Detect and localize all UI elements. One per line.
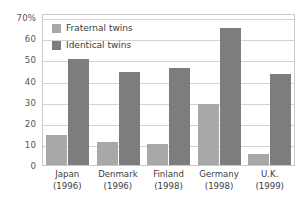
bar-fraternal[interactable] — [46, 135, 67, 165]
x-tick-country: Denmark — [93, 169, 144, 181]
fraternal-swatch-icon — [52, 24, 61, 33]
chart-legend: Fraternal twins Identical twins — [52, 21, 133, 55]
legend-label-fraternal: Fraternal twins — [66, 24, 133, 33]
y-tick-label: 60 — [25, 34, 36, 44]
identical-swatch-icon — [52, 41, 61, 50]
x-tick-year: (1999) — [244, 181, 295, 193]
bar-fraternal[interactable] — [147, 144, 168, 165]
bar-group — [195, 15, 246, 165]
x-axis: Japan(1996)Denmark(1996)Finland(1998)Ger… — [42, 169, 295, 205]
x-tick-country: U.K. — [244, 169, 295, 181]
x-tick-label: Japan(1996) — [42, 169, 93, 192]
x-tick-year: (1996) — [42, 181, 93, 193]
x-tick-country: Finland — [143, 169, 194, 181]
x-tick-year: (1998) — [143, 181, 194, 193]
x-tick-label: Germany(1998) — [194, 169, 245, 192]
bar-identical[interactable] — [220, 28, 241, 165]
bar-identical[interactable] — [270, 74, 291, 165]
twin-concordance-bar-chart: 70%6050403020100 Fraternal twins Identic… — [0, 0, 306, 209]
legend-item-identical: Identical twins — [52, 38, 133, 53]
y-tick-label: 30 — [25, 98, 36, 108]
y-tick-label: 40 — [25, 77, 36, 87]
y-axis: 70%6050403020100 — [0, 0, 40, 209]
x-tick-country: Japan — [42, 169, 93, 181]
bar-identical[interactable] — [169, 68, 190, 165]
bar-fraternal[interactable] — [198, 104, 219, 165]
y-tick-label: 0 — [30, 161, 36, 171]
y-tick-label: 10 — [25, 140, 36, 150]
x-tick-year: (1998) — [194, 181, 245, 193]
bar-group — [245, 15, 295, 165]
bar-fraternal[interactable] — [97, 142, 118, 165]
legend-label-identical: Identical twins — [66, 41, 131, 50]
y-tick-label: 70% — [17, 13, 36, 23]
bar-identical[interactable] — [119, 72, 140, 165]
x-tick-label: U.K.(1999) — [244, 169, 295, 192]
x-tick-label: Finland(1998) — [143, 169, 194, 192]
y-tick-label: 20 — [25, 119, 36, 129]
bar-fraternal[interactable] — [248, 154, 269, 165]
x-tick-label: Denmark(1996) — [93, 169, 144, 192]
legend-item-fraternal: Fraternal twins — [52, 21, 133, 36]
bar-identical[interactable] — [68, 59, 89, 165]
bar-group — [144, 15, 195, 165]
y-tick-label: 50 — [25, 55, 36, 65]
plot-area: Fraternal twins Identical twins — [42, 14, 295, 166]
x-tick-year: (1996) — [93, 181, 144, 193]
x-tick-country: Germany — [194, 169, 245, 181]
